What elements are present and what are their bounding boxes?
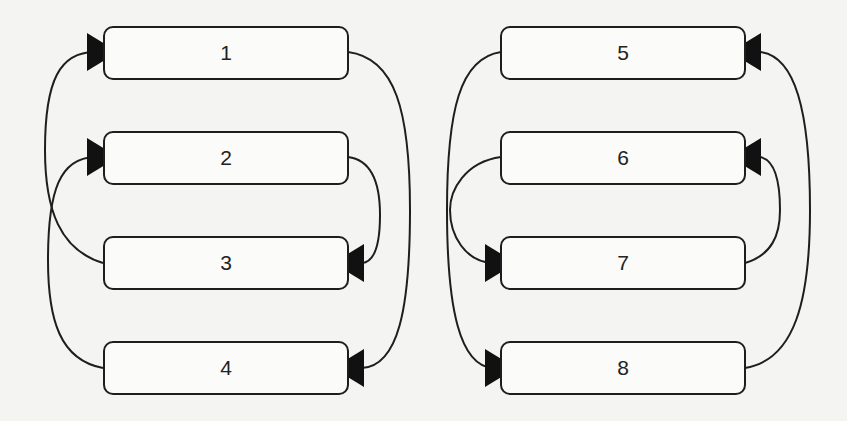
- node-3: 3: [103, 236, 349, 290]
- node-5: 5: [500, 26, 746, 80]
- edge-5-to-8: [447, 52, 501, 368]
- edge-6-to-7: [450, 157, 501, 263]
- node-6: 6: [500, 131, 746, 185]
- node-7: 7: [500, 236, 746, 290]
- node-label: 1: [220, 41, 232, 65]
- node-2: 2: [103, 131, 349, 185]
- node-label: 3: [220, 251, 232, 275]
- node-4: 4: [103, 341, 349, 395]
- node-label: 6: [617, 146, 629, 170]
- edge-7-to-6: [745, 157, 780, 263]
- node-label: 7: [617, 251, 629, 275]
- node-8: 8: [500, 341, 746, 395]
- node-1: 1: [103, 26, 349, 80]
- node-label: 5: [617, 41, 629, 65]
- edge-8-to-5: [745, 52, 810, 368]
- node-label: 2: [220, 146, 232, 170]
- node-label: 8: [617, 356, 629, 380]
- node-label: 4: [220, 356, 232, 380]
- edge-4-to-2: [48, 157, 103, 368]
